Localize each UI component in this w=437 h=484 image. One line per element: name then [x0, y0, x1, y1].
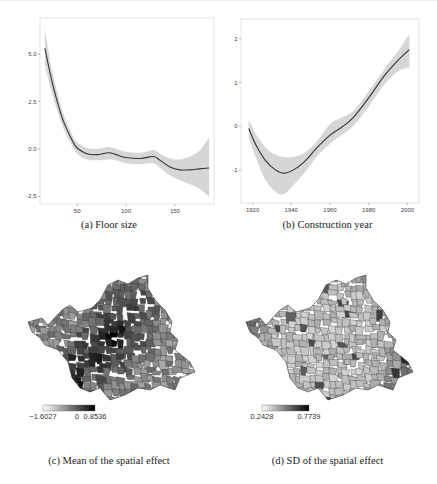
x-tick-label: 1920	[246, 207, 260, 213]
y-tick-label: 1	[234, 80, 238, 86]
map-regions	[236, 268, 426, 415]
x-tick-label: 2000	[401, 207, 415, 213]
legend-label: 0.2428	[251, 412, 274, 421]
panel-spatial-mean: −1.602700.8536 (c) Mean of the spatial e…	[0, 270, 218, 484]
legend-label: 0.8536	[84, 412, 107, 421]
caption-spatial-sd: (d) SD of the spatial effect	[218, 455, 437, 466]
caption-spatial-mean: (c) Mean of the spatial effect	[0, 455, 218, 466]
x-tick-label: 1940	[285, 207, 299, 213]
panel-construction-year: -101219201940196019802000 (b) Constructi…	[0, 0, 437, 240]
construction-year-chart: -101219201940196019802000	[0, 0, 437, 215]
y-tick-label: 2	[234, 36, 238, 42]
x-tick-label: 1980	[362, 207, 376, 213]
legend-label: 0.7739	[298, 412, 321, 421]
panel-spatial-sd: 0.24280.7739 (d) SD of the spatial effec…	[218, 270, 437, 484]
legend-label: 0	[75, 412, 79, 421]
y-tick-label: -1	[232, 167, 238, 173]
x-tick-label: 1960	[323, 207, 337, 213]
map-regions	[18, 268, 207, 415]
caption-construction-year: (b) Construction year	[218, 219, 437, 230]
legend-label: −1.6027	[29, 412, 56, 421]
color-legend-bar	[43, 405, 95, 411]
spatial-sd-map: 0.24280.7739	[218, 270, 437, 430]
y-tick-label: 0	[234, 123, 238, 129]
color-legend-bar	[262, 405, 309, 411]
spatial-mean-map: −1.602700.8536	[0, 270, 218, 430]
